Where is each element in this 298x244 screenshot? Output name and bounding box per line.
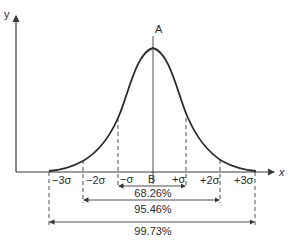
center-label-b: B: [148, 173, 155, 185]
y-axis-label: y: [4, 8, 10, 20]
label-minus-1-sigma: −σ: [120, 173, 133, 185]
label-plus-1-sigma: +σ: [172, 173, 185, 185]
label-minus-3-sigma: −3σ: [52, 174, 72, 186]
span-3-sigma-label: 99.73%: [134, 225, 172, 237]
label-minus-2-sigma: −2σ: [86, 174, 106, 186]
normal-distribution-diagram: y x A B −3σ −2σ −σ +σ +2σ +3σ 68.26% 95.…: [0, 0, 298, 244]
label-plus-3-sigma: +3σ: [234, 174, 254, 186]
x-axis-label: x: [278, 166, 285, 178]
span-1-sigma-label: 68.26%: [134, 187, 172, 199]
label-plus-2-sigma: +2σ: [200, 174, 220, 186]
span-2-sigma-label: 95.46%: [134, 203, 172, 215]
bell-curve: [49, 48, 256, 171]
peak-label-a: A: [155, 23, 163, 35]
